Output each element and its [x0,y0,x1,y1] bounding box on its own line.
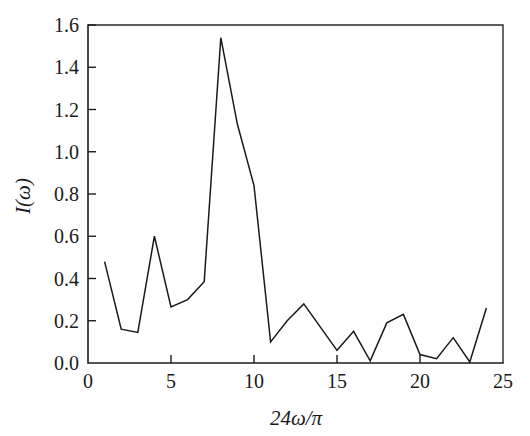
x-tick-label: 20 [410,370,430,392]
x-tick-label: 15 [327,370,347,392]
y-tick-label: 0.2 [54,310,79,332]
y-tick-label: 1.6 [54,14,79,36]
x-axis-title: 24ω/π [270,406,323,430]
chart-figure: 0510152025 0.00.20.40.60.81.01.21.41.6 2… [0,0,530,436]
chart-background [0,0,530,436]
y-tick-label: 1.2 [54,99,79,121]
y-tick-label: 0.6 [54,225,79,247]
y-tick-label: 0.4 [54,268,79,290]
y-axis-tick-labels: 0.00.20.40.60.81.01.21.41.6 [54,14,79,374]
y-tick-label: 0.0 [54,352,79,374]
spectrum-line-chart: 0510152025 0.00.20.40.60.81.01.21.41.6 2… [0,0,530,436]
y-tick-label: 0.8 [54,183,79,205]
y-tick-label: 1.4 [54,56,79,78]
x-tick-label: 5 [166,370,176,392]
x-tick-label: 10 [244,370,264,392]
x-tick-label: 0 [83,370,93,392]
y-axis-title: I(ω) [11,178,35,215]
x-tick-label: 25 [493,370,513,392]
y-tick-label: 1.0 [54,141,79,163]
